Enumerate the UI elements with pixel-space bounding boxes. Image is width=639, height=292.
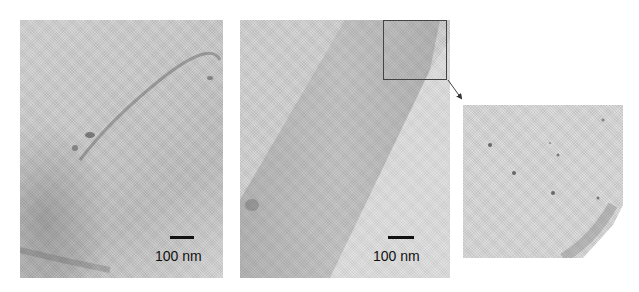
inset-detail — [463, 105, 623, 258]
micrograph-panel-inset-zoom — [463, 105, 623, 258]
